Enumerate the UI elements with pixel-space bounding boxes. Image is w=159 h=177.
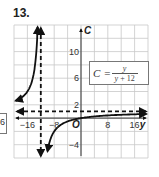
equation-equals: = xyxy=(104,67,110,79)
x-axis-label: y xyxy=(139,119,146,130)
fraction-numerator: y xyxy=(112,64,138,74)
equation-fraction: y y + 12 xyxy=(115,64,135,83)
graph: −16−8816 1062−4 y C O xyxy=(0,0,159,177)
x-tick-label: 16 xyxy=(130,120,140,130)
x-tick-label: −16 xyxy=(20,120,35,130)
c-tick-labels: 1062−4 xyxy=(69,47,79,150)
c-axis-label: C xyxy=(84,25,92,36)
origin-label: O xyxy=(72,119,80,130)
equation-box: C = y y + 12 xyxy=(89,61,149,85)
c-tick-label: 10 xyxy=(69,47,79,57)
denominator-rest: + 12 xyxy=(118,74,135,83)
equation-lhs: C xyxy=(93,67,100,79)
fraction-denominator: y + 12 xyxy=(115,74,135,83)
c-tick-label: −4 xyxy=(69,140,79,150)
x-tick-label: −8 xyxy=(49,120,59,130)
x-tick-label: 8 xyxy=(105,120,110,130)
c-tick-label: 6 xyxy=(74,73,79,83)
c-tick-label: 2 xyxy=(74,100,79,110)
